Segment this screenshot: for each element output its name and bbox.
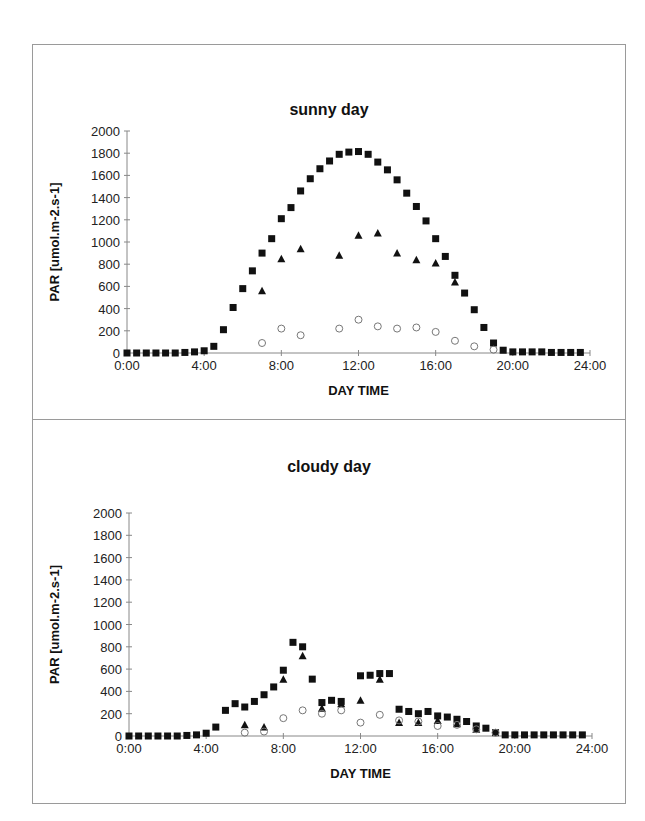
axes: 02004006008001000120014001600180020000:0… (91, 124, 606, 373)
square-marker (287, 204, 294, 211)
circle-marker (394, 325, 401, 332)
square-marker (203, 730, 210, 737)
square-marker (230, 304, 237, 311)
square-marker (577, 349, 584, 356)
x-tick-label: 12:00 (344, 741, 377, 756)
square-marker (278, 215, 285, 222)
square-marker (210, 343, 217, 350)
square-marker (164, 733, 171, 740)
square-marker (425, 708, 432, 715)
y-tick-label: 1600 (93, 551, 122, 566)
y-axis-title: PAR [umol.m-2.s-1] (47, 183, 62, 302)
square-marker (241, 704, 248, 711)
circle-marker (374, 323, 381, 330)
y-tick-label: 1800 (93, 528, 122, 543)
sunny-day-chart-panel: sunny day 020040060080010001200140016001… (32, 44, 626, 420)
square-marker (133, 350, 140, 357)
x-tick-label: 4:00 (194, 741, 219, 756)
square-marker (529, 348, 536, 355)
y-tick-label: 400 (100, 684, 122, 699)
square-marker (326, 157, 333, 164)
triangle-marker (277, 255, 285, 263)
y-tick-label: 1000 (93, 618, 122, 633)
square-marker (540, 731, 547, 738)
circle-marker (241, 729, 248, 736)
square-marker (442, 253, 449, 260)
square-marker (394, 176, 401, 183)
square-marker (249, 267, 256, 274)
circle-marker (259, 340, 266, 347)
square-marker (212, 724, 219, 731)
square-marker (126, 733, 133, 740)
triangle-marker (357, 696, 365, 704)
y-tick-label: 2000 (93, 506, 122, 521)
square-marker (328, 697, 335, 704)
square-marker (232, 700, 239, 707)
square-marker (152, 350, 159, 357)
x-tick-label: 4:00 (192, 358, 217, 373)
circle-marker (451, 337, 458, 344)
square-marker (432, 235, 439, 242)
square-marker (403, 190, 410, 197)
series-squares (124, 148, 584, 356)
circle-marker (376, 711, 383, 718)
sunny-day-plot: 02004006008001000120014001600180020000:0… (33, 45, 627, 421)
circle-marker (278, 325, 285, 332)
square-marker (415, 710, 422, 717)
square-marker (191, 348, 198, 355)
y-tick-label: 200 (98, 324, 120, 339)
x-tick-label: 12:00 (342, 358, 375, 373)
square-marker (386, 670, 393, 677)
circle-marker (297, 332, 304, 339)
series-triangles (241, 652, 481, 733)
square-marker (444, 714, 451, 721)
square-marker (558, 349, 565, 356)
triangle-marker (258, 287, 266, 295)
circle-marker (432, 328, 439, 335)
square-marker (355, 148, 362, 155)
square-marker (239, 285, 246, 292)
square-marker (365, 151, 372, 158)
y-tick-label: 1200 (93, 595, 122, 610)
square-marker (143, 350, 150, 357)
square-marker (550, 731, 557, 738)
triangle-marker (297, 245, 305, 253)
square-marker (297, 187, 304, 194)
y-tick-label: 600 (100, 662, 122, 677)
circle-marker (413, 324, 420, 331)
x-axis-title: DAY TIME (328, 383, 389, 398)
x-tick-label: 24:00 (574, 358, 607, 373)
square-marker (135, 733, 142, 740)
square-marker (511, 731, 518, 738)
series-squares (126, 639, 586, 740)
square-marker (384, 166, 391, 173)
x-tick-label: 8:00 (269, 358, 294, 373)
square-marker (521, 731, 528, 738)
square-marker (145, 733, 152, 740)
x-tick-label: 20:00 (499, 741, 532, 756)
cloudy-day-chart-panel: cloudy day 02004006008001000120014001600… (32, 419, 626, 804)
y-tick-label: 1400 (93, 573, 122, 588)
square-marker (463, 718, 470, 725)
axes: 02004006008001000120014001600180020000:0… (93, 506, 608, 756)
x-tick-label: 24:00 (576, 741, 609, 756)
y-tick-label: 400 (98, 302, 120, 317)
triangle-marker (241, 721, 249, 729)
square-marker (220, 326, 227, 333)
square-marker (500, 347, 507, 354)
x-tick-label: 0:00 (116, 741, 141, 756)
square-marker (502, 731, 509, 738)
y-tick-label: 1600 (91, 168, 120, 183)
y-axis-title: PAR [umol.m-2.s-1] (47, 565, 62, 684)
square-marker (181, 349, 188, 356)
square-marker (280, 667, 287, 674)
triangle-marker (335, 251, 343, 259)
square-marker (567, 349, 574, 356)
square-marker (396, 706, 403, 713)
square-marker (336, 151, 343, 158)
square-marker (316, 165, 323, 172)
square-marker (124, 350, 131, 357)
series-circles (259, 316, 497, 353)
circle-marker (355, 316, 362, 323)
circle-marker (357, 719, 364, 726)
